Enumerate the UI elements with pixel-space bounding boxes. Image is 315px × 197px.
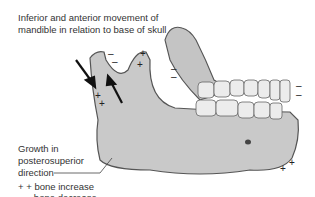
legend-increase-label: bone increase	[34, 181, 94, 192]
legend-decrease-symbol: – –	[18, 192, 31, 197]
svg-text:+: +	[280, 163, 286, 174]
legend-decrease-label: bone decrease	[34, 192, 97, 197]
teeth	[196, 80, 290, 119]
svg-text:+: +	[289, 157, 295, 168]
mental-foramen	[245, 140, 251, 145]
svg-text:+: +	[99, 98, 105, 109]
svg-text:–: –	[296, 89, 302, 100]
legend-decrease: – – bone decrease	[18, 192, 97, 197]
svg-text:–: –	[112, 56, 118, 67]
growth-label-2: posterosuperior	[18, 155, 84, 167]
svg-text:–: –	[171, 71, 177, 82]
legend-increase-symbol: + +	[18, 181, 32, 192]
svg-text:+: +	[137, 59, 143, 70]
growth-label-3: direction	[18, 167, 54, 179]
growth-label-1: Growth in	[18, 143, 59, 155]
title-line-2: mandible in relation to base of skull	[18, 24, 166, 36]
svg-text:+: +	[140, 48, 146, 59]
title-line-1: Inferior and anterior movement of	[18, 12, 158, 24]
